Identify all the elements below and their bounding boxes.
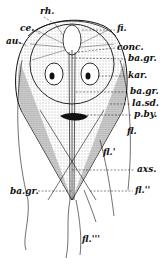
label-ce: ce. (20, 24, 34, 33)
label-conc: conc. (117, 43, 144, 52)
label-ba-gr-3: ba.gr. (10, 187, 39, 196)
label-axs: axs. (137, 165, 156, 174)
label-fl-prime: fl.' (103, 148, 115, 157)
label-rh: rh. (40, 7, 54, 16)
label-fl-dprime: fl.'' (135, 186, 150, 195)
label-ba-gr-1: ba.gr. (128, 54, 157, 63)
label-fl-tprime: fl.''' (82, 235, 100, 244)
label-kar: kar. (128, 71, 147, 80)
label-au: au. (6, 37, 22, 46)
label-fi: fi. (117, 24, 127, 33)
label-la-sd: la.sd. (132, 99, 159, 108)
label-ba-gr-2: ba.gr. (130, 87, 159, 96)
label-fl: fl. (127, 127, 137, 136)
label-p-by: p.by. (134, 110, 157, 119)
